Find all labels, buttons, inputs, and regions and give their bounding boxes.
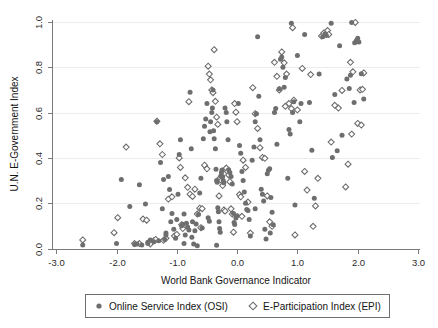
data-point-osi xyxy=(156,238,161,243)
data-point-osi xyxy=(329,21,334,26)
y-axis-title: U.N. E-Government Index xyxy=(9,76,20,191)
data-point-osi xyxy=(166,174,171,179)
x-tick-label: -3.0 xyxy=(48,257,64,268)
data-point-osi xyxy=(279,55,284,60)
data-point-osi xyxy=(158,160,163,165)
data-point-osi xyxy=(203,116,208,121)
legend-label-epi: E-Participation Index (EPI) xyxy=(263,301,381,312)
data-point-osi xyxy=(261,198,266,203)
data-point-osi xyxy=(161,177,166,182)
data-point-osi xyxy=(295,53,300,58)
data-point-osi xyxy=(309,148,314,153)
data-point-osi xyxy=(210,106,215,111)
data-point-osi xyxy=(237,143,242,148)
data-point-osi xyxy=(221,180,226,185)
data-point-osi xyxy=(270,210,275,215)
data-point-osi xyxy=(259,187,264,192)
data-point-osi xyxy=(288,132,293,137)
data-point-osi xyxy=(182,241,187,246)
x-tick-label: -2.0 xyxy=(109,257,125,268)
data-point-osi xyxy=(183,232,188,237)
data-point-osi xyxy=(223,106,228,111)
data-point-osi xyxy=(188,90,193,95)
data-point-osi xyxy=(201,136,206,141)
data-point-osi xyxy=(235,213,240,218)
data-point-osi xyxy=(169,211,174,216)
data-point-osi xyxy=(356,39,361,44)
data-point-osi xyxy=(208,119,213,124)
data-point-osi xyxy=(277,86,282,91)
data-point-osi xyxy=(226,137,231,142)
data-point-osi xyxy=(302,32,307,37)
chart-canvas: 0.00.20.40.60.81.0 -3.0-2.0-1.00.01.02.0… xyxy=(0,0,438,328)
legend-filled-circle-icon xyxy=(96,303,101,308)
data-point-osi xyxy=(337,43,342,48)
data-point-osi xyxy=(243,201,248,206)
data-point-osi xyxy=(135,241,140,246)
data-point-osi xyxy=(173,236,178,241)
data-point-osi xyxy=(204,101,209,106)
x-tick-label: 3.0 xyxy=(412,257,425,268)
data-point-osi xyxy=(151,239,156,244)
data-point-osi xyxy=(236,101,241,106)
data-point-osi xyxy=(224,110,229,115)
data-point-osi xyxy=(274,142,279,147)
data-point-osi xyxy=(143,202,148,207)
data-point-osi xyxy=(177,152,182,157)
y-tick-label: 0.8 xyxy=(33,61,44,74)
data-point-osi xyxy=(242,189,247,194)
data-point-osi xyxy=(245,208,250,213)
data-point-osi xyxy=(268,195,273,200)
x-tick-label: -1.0 xyxy=(169,257,185,268)
data-point-osi xyxy=(162,237,167,242)
data-point-osi xyxy=(291,99,296,104)
data-point-osi xyxy=(167,187,172,192)
data-point-osi xyxy=(192,228,197,233)
data-point-osi xyxy=(254,111,259,116)
data-point-osi xyxy=(163,232,168,237)
data-point-osi xyxy=(317,72,322,77)
data-point-osi xyxy=(119,177,124,182)
data-point-osi xyxy=(248,234,253,239)
data-point-osi xyxy=(202,124,207,129)
data-point-osi xyxy=(271,222,276,227)
data-point-osi xyxy=(239,169,244,174)
x-axis-title: World Bank Governance Indicator xyxy=(161,275,312,286)
data-point-osi xyxy=(174,217,179,222)
data-point-osi xyxy=(256,94,261,99)
data-point-osi xyxy=(224,119,229,124)
data-point-osi xyxy=(217,219,222,224)
data-point-osi xyxy=(253,119,258,124)
data-point-osi xyxy=(238,151,243,156)
data-point-osi xyxy=(335,148,340,153)
data-point-osi xyxy=(251,145,256,150)
data-point-osi xyxy=(352,100,357,105)
data-point-osi xyxy=(352,40,357,45)
data-point-osi xyxy=(312,196,317,201)
y-tick-label: 0.2 xyxy=(33,197,44,210)
data-point-osi xyxy=(258,137,263,142)
data-point-osi xyxy=(178,137,183,142)
data-point-osi xyxy=(247,217,252,222)
data-point-osi xyxy=(250,158,255,163)
data-point-osi xyxy=(253,206,258,211)
data-point-osi xyxy=(220,167,225,172)
data-point-osi xyxy=(216,209,221,214)
data-point-osi xyxy=(154,119,159,124)
data-point-osi xyxy=(290,110,295,115)
y-tick-label: 1.0 xyxy=(33,16,44,29)
scatter-plot-figure: 0.00.20.40.60.81.0 -3.0-2.0-1.00.01.02.0… xyxy=(0,0,438,328)
data-point-osi xyxy=(218,230,223,235)
data-point-osi xyxy=(230,181,235,186)
data-point-osi xyxy=(211,128,216,133)
data-point-osi xyxy=(282,85,287,90)
data-point-osi xyxy=(209,110,214,115)
data-point-osi xyxy=(280,65,285,70)
data-point-osi xyxy=(207,219,212,224)
data-point-osi xyxy=(267,166,272,171)
data-point-osi xyxy=(214,243,219,248)
x-tick-label: 2.0 xyxy=(352,257,365,268)
data-point-osi xyxy=(273,106,278,111)
data-point-osi xyxy=(139,242,144,247)
data-point-osi xyxy=(198,176,203,181)
